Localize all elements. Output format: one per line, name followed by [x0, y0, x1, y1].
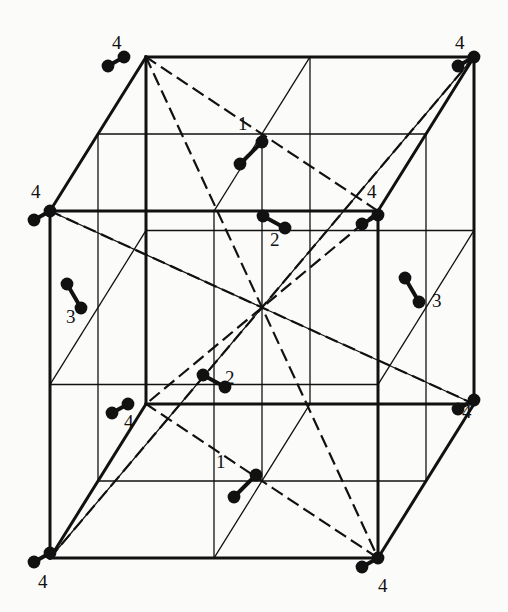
site-label-5: 1: [216, 452, 226, 471]
corner-label-2: 4: [31, 182, 41, 201]
corner-label-3: 4: [367, 182, 377, 201]
corner-label-7: 4: [378, 576, 388, 595]
crystal-structure-figure: 44444444123321: [0, 0, 508, 612]
site-label-2: 3: [66, 307, 76, 326]
site-label-1: 2: [270, 230, 280, 249]
corner-label-4: 4: [124, 412, 134, 431]
corner-label-5: 4: [462, 402, 472, 421]
hidden-and-diagonal-dashed-lines: [50, 57, 474, 558]
corner-label-6: 4: [38, 572, 48, 591]
corner-label-0: 4: [112, 33, 122, 52]
site-label-3: 3: [432, 291, 442, 310]
site-label-4: 2: [225, 368, 235, 387]
corner-label-1: 4: [455, 33, 465, 52]
site-label-0: 1: [238, 114, 248, 133]
